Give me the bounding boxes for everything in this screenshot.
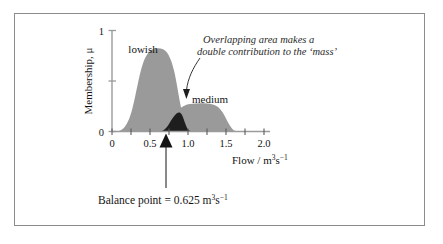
balance-point-marker [160,134,173,189]
x-axis-title-sup2: −1 [280,153,288,162]
x-ticklabel-0-5: 0.5 [143,138,156,149]
curves-group [115,48,241,131]
balance-point-caption: Balance point = 0.625 m3s−1 [98,193,228,208]
x-ticklabel-0: 0 [109,138,114,149]
overlap-annotation: Overlapping area makes a double contribu… [183,34,337,99]
caption-sup2: −1 [220,193,228,202]
y-axis-title: Membership, μ [82,47,94,114]
x-axis-title-main: Flow / m [232,154,272,166]
annotation-arrowhead-icon [183,89,190,99]
y-ticklabel-1: 1 [99,26,104,37]
lowish-label: lowish [128,43,158,55]
x-ticklabel-1-5: 1.5 [219,138,232,149]
svg-text:Flow / m3s−1: Flow / m3s−1 [232,153,288,166]
x-ticklabel-1-0: 1.0 [181,138,194,149]
membership-chart: 1 0 0 0.5 1.0 1.5 2.0 Membership, μ Flow… [0,0,443,244]
overlap-note-line1: Overlapping area makes a [203,34,314,45]
x-axis-title: Flow / m3s−1 [232,153,288,166]
annotation-leader-line [187,58,201,90]
x-ticklabel-2-0: 2.0 [257,138,270,149]
overlap-note-line2: double contribution to the ‘mass’ [197,46,337,57]
medium-label: medium [192,93,228,105]
balance-point-arrowhead-icon [160,134,173,148]
caption-main: Balance point = 0.625 m [98,194,212,207]
y-ticklabel-0: 0 [99,127,104,138]
